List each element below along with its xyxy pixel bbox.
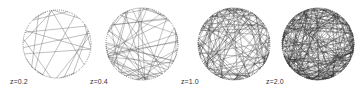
- panel-label: z=0.2: [10, 78, 28, 85]
- panel-z-2-0: [282, 8, 354, 80]
- chord-line: [23, 34, 89, 48]
- chord-line: [109, 57, 139, 80]
- chord-line: [35, 11, 51, 70]
- chord-line: [215, 75, 251, 76]
- chord-line: [198, 19, 208, 41]
- panel-z-0-4: [106, 8, 178, 80]
- panel-z-0-2: [0, 0, 360, 98]
- chord-line: [146, 8, 165, 16]
- chord-line: [73, 31, 88, 74]
- chord-line: [141, 8, 165, 16]
- chord-line: [112, 63, 135, 79]
- chord-line: [56, 36, 90, 78]
- chord-line: [177, 34, 178, 45]
- chord-line: [23, 10, 53, 42]
- panel-label: z=0.4: [90, 78, 108, 85]
- chord-line: [172, 55, 176, 64]
- panel-z-0-2: [23, 10, 91, 78]
- chord-line: [152, 9, 171, 22]
- chord-line: [43, 15, 76, 75]
- chord-line: [71, 74, 73, 75]
- chord-disk-diagram: [0, 0, 360, 98]
- chord-line: [60, 73, 75, 78]
- chord-line: [25, 26, 86, 32]
- chord-line: [120, 72, 150, 79]
- chord-line: [32, 67, 44, 75]
- chord-line: [147, 18, 167, 80]
- panel-z-1-0: [198, 8, 270, 80]
- chord-line: [26, 58, 33, 67]
- chord-line: [108, 12, 125, 33]
- chord-line: [204, 20, 261, 63]
- chord-line: [34, 12, 46, 19]
- panel-label: z=2.0: [266, 78, 284, 85]
- chord-line: [113, 8, 144, 65]
- panel-label: z=1.0: [181, 78, 199, 85]
